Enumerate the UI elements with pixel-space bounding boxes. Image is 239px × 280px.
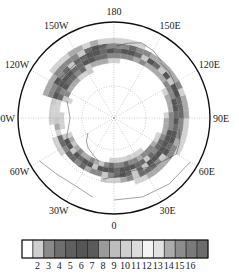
colorbar-swatch xyxy=(186,240,197,258)
lon-label-60w: 60W xyxy=(10,166,30,177)
colorbar-swatch xyxy=(55,240,66,258)
colorbar-label: 13 xyxy=(153,260,163,271)
polar-map-figure: 180150E120E90E60E30E030W60W90W120W150W 2… xyxy=(0,0,239,280)
colorbar-label: 9 xyxy=(112,260,117,271)
colorbar-label: 2 xyxy=(35,260,40,271)
colorbar-swatch xyxy=(164,240,175,258)
lon-label-60e: 60E xyxy=(199,166,215,177)
colorbar-label: 8 xyxy=(101,260,106,271)
colorbar: 2345678910111213141516 xyxy=(22,240,208,271)
colorbar-label: 3 xyxy=(46,260,51,271)
lon-label-120w: 120W xyxy=(5,59,30,70)
colorbar-swatch xyxy=(110,240,121,258)
lon-label-180: 180 xyxy=(107,6,122,17)
colorbar-label: 6 xyxy=(79,260,84,271)
colorbar-label: 15 xyxy=(175,260,185,271)
colorbar-swatch xyxy=(120,240,131,258)
colorbar-swatch xyxy=(153,240,164,258)
lon-label-90e: 90E xyxy=(213,113,229,124)
shaded-value-cells xyxy=(43,38,189,185)
lon-label-150w: 150W xyxy=(44,20,69,31)
colorbar-swatch xyxy=(77,240,88,258)
colorbar-label: 11 xyxy=(131,260,141,271)
colorbar-label: 10 xyxy=(120,260,130,271)
colorbar-swatch xyxy=(66,240,77,258)
colorbar-label: 5 xyxy=(68,260,73,271)
lon-label-30e: 30E xyxy=(160,205,176,216)
colorbar-swatch xyxy=(197,240,208,258)
lon-label-90w: 90W xyxy=(0,113,16,124)
colorbar-label: 12 xyxy=(142,260,152,271)
lon-label-0: 0 xyxy=(112,220,117,231)
colorbar-swatch xyxy=(142,240,153,258)
colorbar-swatch xyxy=(99,240,110,258)
colorbar-label: 4 xyxy=(57,260,62,271)
colorbar-swatch xyxy=(88,240,99,258)
colorbar-swatch xyxy=(44,240,55,258)
colorbar-label: 16 xyxy=(186,260,196,271)
colorbar-swatch xyxy=(131,240,142,258)
lon-label-150e: 150E xyxy=(160,20,181,31)
colorbar-swatch xyxy=(22,240,33,258)
lon-label-30w: 30W xyxy=(49,205,69,216)
colorbar-label: 14 xyxy=(164,260,174,271)
colorbar-swatch xyxy=(33,240,44,258)
colorbar-label: 7 xyxy=(90,260,95,271)
colorbar-swatch xyxy=(175,240,186,258)
lon-label-120e: 120E xyxy=(199,59,220,70)
